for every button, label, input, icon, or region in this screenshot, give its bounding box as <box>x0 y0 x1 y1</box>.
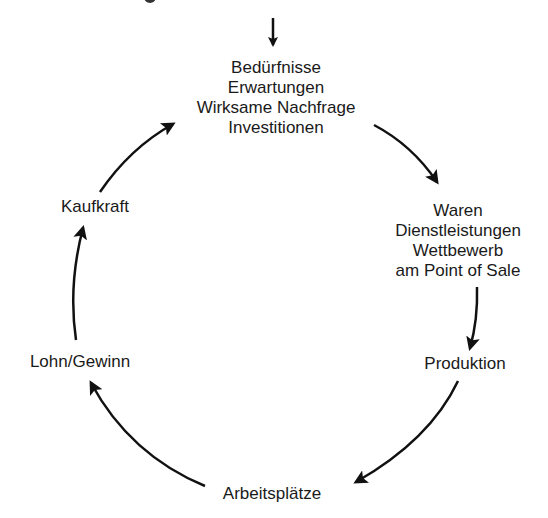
node-beduerfnisse: Bedürfnisse Erwartungen Wirksame Nachfra… <box>197 58 356 138</box>
arrow-lohn-to-kaufkraft-icon <box>73 228 83 340</box>
node-produktion: Produktion <box>424 354 505 374</box>
arrow-produktion-to-arbeitsplaetze-icon <box>356 381 458 482</box>
node-label: Investitionen <box>197 118 356 138</box>
node-label: Wettbewerb <box>395 241 521 261</box>
node-waren: Waren Dienstleistungen Wettbewerb am Poi… <box>395 201 521 281</box>
economic-cycle-diagram: Bedürfnisse Erwartungen Wirksame Nachfra… <box>0 0 548 518</box>
arrow-waren-to-produktion-icon <box>470 287 477 348</box>
arrow-arbeitsplaetze-to-lohn-icon <box>91 383 205 486</box>
node-label: Arbeitsplätze <box>223 484 321 504</box>
node-label: am Point of Sale <box>395 261 521 281</box>
node-lohn-gewinn: Lohn/Gewinn <box>30 352 130 372</box>
node-label: Erwartungen <box>197 78 356 98</box>
node-label: Wirksame Nachfrage <box>197 98 356 118</box>
node-label: Lohn/Gewinn <box>30 352 130 372</box>
arrow-top-to-waren-icon <box>374 125 437 182</box>
node-label: Kaufkraft <box>61 197 129 217</box>
node-label: Produktion <box>424 354 505 374</box>
node-label: Dienstleistungen <box>395 221 521 241</box>
node-label: Waren <box>395 201 521 221</box>
node-kaufkraft: Kaufkraft <box>61 197 129 217</box>
node-arbeitsplaetze: Arbeitsplätze <box>223 484 321 504</box>
node-label: Bedürfnisse <box>197 58 356 78</box>
arrow-kaufkraft-to-top-icon <box>100 124 173 192</box>
